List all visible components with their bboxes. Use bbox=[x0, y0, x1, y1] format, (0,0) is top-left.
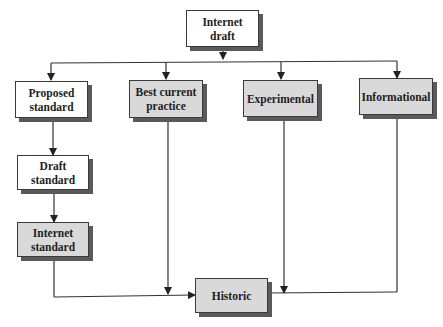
node-internet-draft-line2: draft bbox=[210, 30, 235, 42]
node-best-current-practice: Best current practice bbox=[129, 80, 203, 118]
node-experimental-label: Experimental bbox=[247, 92, 314, 106]
node-bcp-line1: Best current bbox=[136, 86, 197, 98]
node-internet-draft-line1: Internet bbox=[202, 16, 242, 28]
node-draft-standard-line1: Draft bbox=[40, 160, 67, 172]
node-internet-draft: Internet draft bbox=[186, 10, 259, 47]
node-proposed-standard-line1: Proposed bbox=[29, 87, 75, 99]
node-draft-standard: Draft standard bbox=[17, 155, 89, 190]
node-proposed-standard: Proposed standard bbox=[15, 81, 88, 118]
node-internet-standard-line1: Internet bbox=[33, 227, 73, 239]
node-historic: Historic bbox=[195, 278, 268, 313]
node-draft-standard-line2: standard bbox=[31, 174, 75, 186]
node-experimental: Experimental bbox=[243, 80, 318, 117]
node-informational: Informational bbox=[359, 78, 433, 115]
node-internet-standard: Internet standard bbox=[17, 222, 89, 257]
node-historic-label: Historic bbox=[212, 289, 252, 303]
node-proposed-standard-line2: standard bbox=[29, 101, 73, 113]
node-bcp-line2: practice bbox=[146, 100, 186, 112]
node-internet-standard-line2: standard bbox=[31, 241, 75, 253]
node-informational-label: Informational bbox=[362, 90, 431, 104]
